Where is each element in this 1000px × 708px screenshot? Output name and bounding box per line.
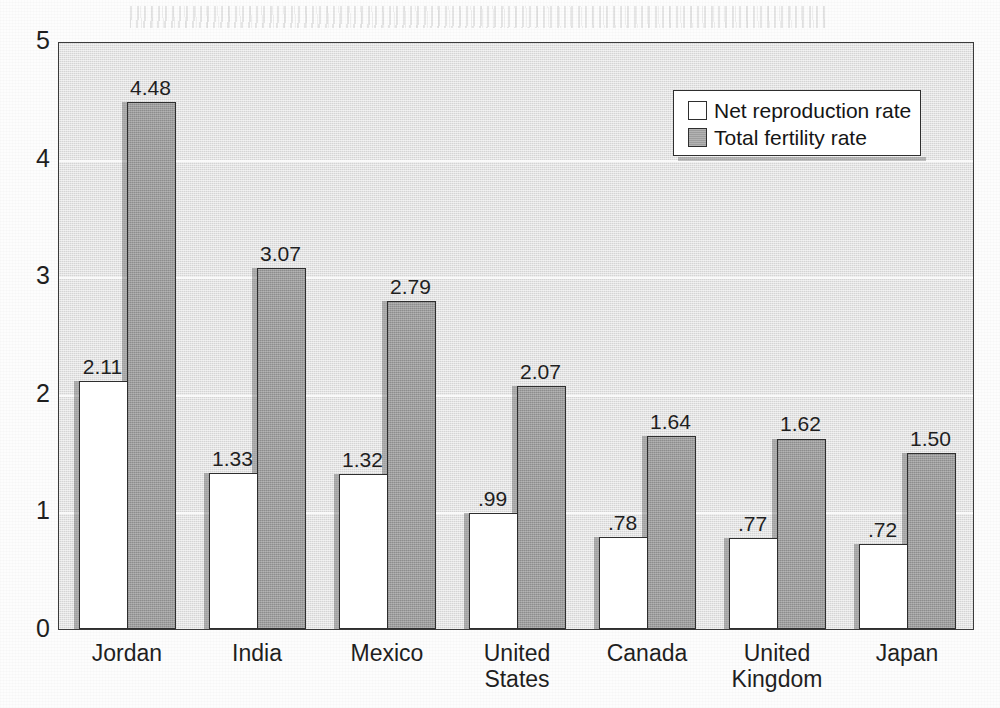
bar-value-label: .99	[455, 488, 530, 509]
bar-net-reproduction-rate	[469, 513, 518, 629]
bar-value-label: .78	[585, 512, 660, 533]
y-axis-tick-label: 4	[4, 146, 50, 171]
bar-value-label: 2.79	[373, 276, 448, 297]
bar-value-label: 1.64	[633, 411, 708, 432]
y-axis-tick-label: 1	[4, 498, 50, 523]
bar-net-reproduction-rate	[599, 537, 648, 629]
legend-label-net-reproduction-rate: Net reproduction rate	[714, 100, 911, 121]
bar-value-label: 3.07	[243, 243, 318, 264]
bar-net-reproduction-rate	[339, 474, 388, 629]
bar-net-reproduction-rate	[79, 381, 128, 629]
y-axis: 012345	[0, 0, 50, 708]
bar-chart: 012345 2.114.481.333.071.322.79.992.07.7…	[0, 0, 1000, 708]
bar-value-label: 1.32	[325, 449, 400, 470]
y-axis-tick-label: 0	[4, 616, 50, 641]
legend-item-total-fertility-rate: Total fertility rate	[688, 124, 920, 151]
bar-value-label: 2.11	[65, 356, 140, 377]
bar-value-label: 2.07	[503, 361, 578, 382]
y-axis-tick-label: 5	[4, 28, 50, 53]
bar-value-label: 1.50	[893, 428, 968, 449]
bar-value-label: 4.48	[113, 77, 188, 98]
legend-label-total-fertility-rate: Total fertility rate	[714, 127, 867, 148]
bar-net-reproduction-rate	[209, 473, 258, 629]
bar-total-fertility-rate	[907, 453, 956, 629]
legend-swatch-white-icon	[688, 101, 707, 120]
bar-value-label: .77	[715, 513, 790, 534]
legend-swatch-gray-icon	[688, 128, 707, 147]
bar-value-label: 1.33	[195, 448, 270, 469]
x-axis-tick-label: Japan	[827, 640, 987, 666]
bar-value-label: 1.62	[763, 413, 838, 434]
y-axis-tick-label: 3	[4, 263, 50, 288]
legend: Net reproduction rate Total fertility ra…	[673, 90, 921, 156]
y-axis-tick-label: 2	[4, 381, 50, 406]
bar-net-reproduction-rate	[859, 544, 908, 629]
bar-value-label: .72	[845, 519, 920, 540]
legend-item-net-reproduction-rate: Net reproduction rate	[688, 97, 920, 124]
bar-net-reproduction-rate	[729, 538, 778, 629]
